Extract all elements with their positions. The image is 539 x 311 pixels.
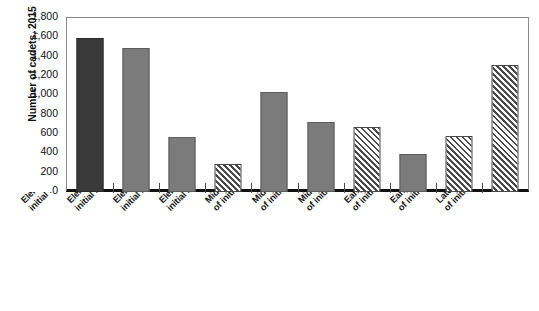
bar[interactable] xyxy=(77,38,104,192)
bar[interactable] xyxy=(261,92,288,192)
bar[interactable] xyxy=(491,65,518,192)
bar-slot xyxy=(251,18,297,192)
bar[interactable] xyxy=(123,48,150,192)
bar-chart-figure: Number of cadets, 2015 1,8001,6001,4001,… xyxy=(0,0,539,311)
y-axis-tick-label: 1,800 xyxy=(32,10,58,22)
y-axis-tick-label: 400 xyxy=(40,145,58,157)
y-axis-tick-label: 1,000 xyxy=(32,87,58,99)
bar-slot xyxy=(344,18,390,192)
y-axis-tick-label: 1,400 xyxy=(32,49,58,61)
bar-slot xyxy=(436,18,482,192)
y-axis-tick-label: 800 xyxy=(40,107,58,119)
y-axis-tick-label: 200 xyxy=(40,165,58,177)
x-axis-category-label: Late HS--> Late HS (98%of initial late H… xyxy=(434,192,523,214)
y-axis-tick-labels: 1,8001,6001,4001,2001,0008006004002000 xyxy=(0,17,66,192)
bar-slot xyxy=(298,18,344,192)
bar-slot xyxy=(390,18,436,192)
y-axis-tick-label: 1,200 xyxy=(32,68,58,80)
x-axis-category-label-line: of initial late HS scores) xyxy=(442,192,523,214)
bar-series xyxy=(67,18,528,192)
bar-slot xyxy=(482,18,528,192)
y-axis-tick-label: 1,600 xyxy=(32,29,58,41)
x-axis-tick-labels: Elem--> Elem (41% ofinitial Elem scores)… xyxy=(0,192,539,311)
bar-slot xyxy=(205,18,251,192)
y-axis-tick-label: 600 xyxy=(40,126,58,138)
bar-slot xyxy=(67,18,113,192)
bar-slot xyxy=(113,18,159,192)
bar-slot xyxy=(159,18,205,192)
